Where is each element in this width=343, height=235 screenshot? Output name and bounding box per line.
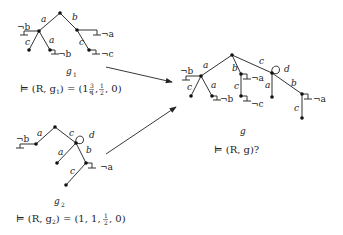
graph-name: g	[66, 66, 72, 76]
edge-label: c	[187, 82, 192, 92]
node	[74, 141, 78, 145]
negation-label: ¬c	[251, 99, 264, 109]
node	[239, 72, 243, 76]
node-leaf	[300, 116, 304, 120]
node-leaf	[270, 95, 274, 99]
svg-text:2: 2	[61, 201, 65, 208]
edge-label: c	[259, 56, 264, 66]
node-leaf	[87, 48, 91, 52]
svg-text:1: 1	[100, 82, 104, 89]
svg-text:, 0): , 0)	[105, 83, 122, 94]
node	[37, 29, 41, 33]
node-leaf	[64, 183, 68, 187]
edge-label: c	[25, 37, 30, 47]
edge-label: a	[41, 14, 46, 24]
svg-text:4: 4	[90, 89, 94, 96]
node-leaf	[55, 161, 59, 165]
node	[84, 161, 88, 165]
arrow-g1-to-g	[106, 67, 172, 82]
node-leaf	[210, 94, 214, 98]
negation-label: ¬b	[16, 134, 30, 144]
negation-label: ¬a	[100, 162, 114, 172]
negation-label: ¬b	[220, 94, 234, 104]
graph-subscript: 1	[73, 71, 77, 78]
node	[34, 142, 38, 146]
node-leaf	[239, 94, 243, 98]
edge-label: a	[211, 80, 216, 90]
node-root	[53, 125, 57, 129]
graph-name: g	[54, 196, 60, 206]
edge-label: b	[291, 78, 297, 88]
node	[270, 71, 274, 75]
negation-label: ¬b	[180, 66, 194, 76]
graph-g1: a b ¬b c a ¬b ¬a c ¬c g 1 ⊨ (R, g1) = (1…	[17, 11, 122, 96]
loop-label: d	[89, 130, 95, 140]
node-leaf	[189, 94, 193, 98]
edge-label: a	[203, 60, 208, 70]
graph-g: a b c d ¬b c a ¬b c ¬a ¬c a b ¬a c g ⊨ (…	[180, 53, 327, 155]
negation-label: ¬a	[101, 29, 115, 39]
edge-label: c	[294, 103, 299, 113]
negation-label: ¬a	[313, 94, 327, 104]
svg-text:2: 2	[104, 219, 108, 226]
edge-label: a	[37, 128, 42, 138]
edge-label: a	[265, 80, 270, 90]
edge-label: c	[69, 128, 74, 138]
negation-label: ¬a	[251, 73, 265, 83]
node-leaf	[27, 48, 31, 52]
edge-label: b	[86, 145, 92, 155]
node	[300, 92, 304, 96]
node-leaf	[48, 48, 52, 52]
edge-label: c	[70, 166, 75, 176]
edge-label: a	[49, 35, 54, 45]
caption-g2: ⊨ (R, g2) = (1, 1,	[16, 213, 101, 225]
edge-label: c	[79, 37, 84, 47]
svg-text:, 0): , 0)	[109, 213, 126, 224]
edge-label: c	[234, 81, 239, 91]
arrow-g2-to-g	[106, 107, 176, 154]
svg-text:1: 1	[104, 212, 108, 219]
caption-g1: ⊨ (R, g1) = (1,	[20, 83, 92, 95]
diagram-canvas: a b ¬b c a ¬b ¬a c ¬c g 1 ⊨ (R, g1) = (1…	[0, 0, 343, 235]
graph-name: g	[240, 126, 246, 136]
edge-label: a	[58, 147, 63, 157]
node	[75, 28, 79, 32]
svg-text:,: ,	[95, 83, 98, 94]
edge-label: b	[72, 12, 78, 22]
negation-label: ¬c	[101, 49, 114, 59]
negation-label: ¬b	[58, 49, 72, 59]
node-root	[58, 11, 62, 15]
svg-text:2: 2	[100, 89, 104, 96]
loop-label: d	[284, 64, 290, 74]
graph-g2: a c d ¬b a b ¬a c g 2 ⊨ (R, g2) = (1, 1,…	[16, 125, 126, 226]
node-root	[230, 53, 234, 57]
node	[199, 74, 203, 78]
svg-text:3: 3	[90, 82, 94, 89]
negation-label: ¬b	[17, 22, 31, 32]
caption-g: ⊨ (R, g)?	[214, 144, 259, 155]
edge-label: b	[232, 63, 238, 73]
